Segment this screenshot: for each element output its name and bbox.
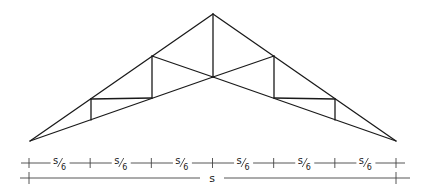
panel-dimension-label: s6: [236, 155, 249, 172]
panel-dimension-label: s6: [53, 155, 66, 172]
panel-dimension-row: s6s6s6s6s6s6: [21, 155, 405, 172]
horizontal-web-R1: [274, 98, 335, 99]
bottom-chord-left: [30, 77, 213, 141]
panel-dimension-label: s6: [359, 155, 372, 172]
panel-dimension-label: s6: [298, 155, 311, 172]
top-chord-right: [213, 14, 396, 141]
svg-text:s: s: [175, 155, 180, 166]
svg-text:s: s: [236, 155, 241, 166]
svg-text:6: 6: [245, 163, 250, 172]
bottom-chord-right: [213, 77, 396, 141]
diagonal-web-R2: [213, 56, 274, 77]
svg-text:6: 6: [183, 163, 188, 172]
span-label: s: [209, 172, 215, 185]
panel-dimension-label: s6: [114, 155, 127, 172]
truss-diagram: s6s6s6s6s6s6 s: [0, 0, 430, 190]
svg-text:s: s: [114, 155, 119, 166]
svg-text:s: s: [298, 155, 303, 166]
horizontal-web-L1: [91, 98, 152, 99]
panel-dimension-label: s6: [175, 155, 188, 172]
span-dimension-row: s: [20, 172, 410, 185]
svg-text:s: s: [359, 155, 364, 166]
diagonal-web-L2: [152, 56, 213, 77]
svg-text:6: 6: [367, 163, 372, 172]
top-chord-left: [30, 14, 213, 141]
svg-text:6: 6: [61, 163, 66, 172]
svg-text:6: 6: [306, 163, 311, 172]
svg-text:s: s: [53, 155, 58, 166]
svg-text:6: 6: [122, 163, 127, 172]
